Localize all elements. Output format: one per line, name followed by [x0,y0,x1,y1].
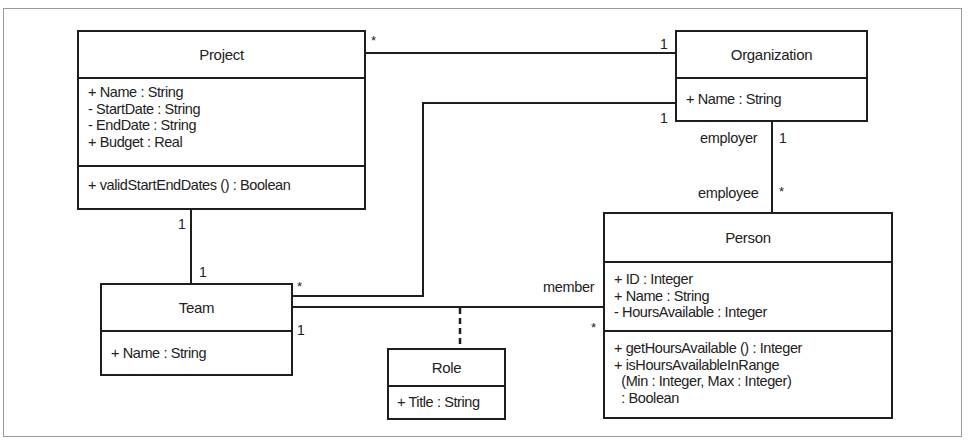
mult-team-person-person-end: * [591,320,596,336]
role-employee: employee [698,185,758,201]
attribute: - HoursAvailable : Integer [614,304,891,321]
operation: + isHoursAvailableInRange [614,357,891,374]
attribute: + Title : String [397,394,504,411]
attribute: + Name : String [686,91,866,108]
class-name: Team [102,285,291,330]
attributes-compartment: + Name : String [102,330,291,374]
attribute: + ID : Integer [614,271,891,288]
attribute: - EndDate : String [88,117,364,134]
mult-project-org-project-end: * [371,33,376,49]
role-employer: employer [700,130,757,146]
attribute: - StartDate : String [88,101,364,118]
attribute: + Name : String [614,288,891,305]
role-member: member [543,279,594,295]
operation: + getHoursAvailable () : Integer [614,340,891,357]
class-name: Project [79,32,364,77]
operation-params: (Min : Integer, Max : Integer) [614,373,891,390]
mult-team-org-team-end: * [297,279,302,295]
operations-compartment: + getHoursAvailable () : Integer + isHou… [605,330,891,417]
attributes-compartment: + Name : String - StartDate : String - E… [79,77,364,165]
class-project: Project + Name : String - StartDate : St… [77,30,366,210]
attribute: + Name : String [111,345,291,362]
attribute: + Name : String [88,84,364,101]
operation-return: : Boolean [614,390,891,407]
mult-team-person-team-end: 1 [297,322,305,338]
operation: + validStartEndDates () : Boolean [88,177,364,194]
mult-org-person-person-end: * [779,184,784,200]
class-organization: Organization + Name : String [675,30,868,122]
attributes-compartment: + Name : String [677,77,866,120]
class-team: Team + Name : String [100,283,293,376]
class-name: Role [389,350,504,385]
mult-org-person-org-end: 1 [779,130,787,146]
class-person: Person + ID : Integer + Name : String - … [603,212,893,419]
mult-project-team-project-end: 1 [178,216,186,232]
attributes-compartment: + Title : String [389,385,504,418]
attributes-compartment: + ID : Integer + Name : String - HoursAv… [605,261,891,330]
class-name: Person [605,214,891,261]
class-name: Organization [677,32,866,77]
class-role: Role + Title : String [387,348,506,420]
mult-project-org-org-end: 1 [660,36,668,52]
operations-compartment: + validStartEndDates () : Boolean [79,165,364,208]
mult-team-org-org-end: 1 [660,110,668,126]
attribute: + Budget : Real [88,134,364,151]
mult-project-team-team-end: 1 [199,264,207,280]
